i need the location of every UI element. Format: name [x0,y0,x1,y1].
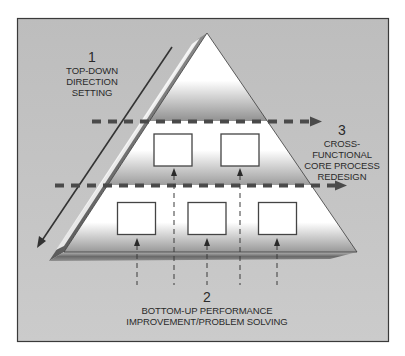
cross-functional-line-2: CORE PROCESS [296,160,388,171]
top-down-number: 1 [52,50,132,65]
bottom-up-number: 2 [117,290,297,305]
top-down-line-3: SETTING [52,87,132,98]
bottom-up-label: 2 BOTTOM-UP PERFORMANCE IMPROVEMENT/PROB… [117,290,297,327]
upper-tier-box-1 [154,134,192,166]
cross-functional-number: 3 [296,123,388,138]
bottom-up-line-2: IMPROVEMENT/PROBLEM SOLVING [117,316,297,327]
top-down-label: 1 TOP-DOWN DIRECTION SETTING [52,50,132,98]
lower-tier-box-1 [118,203,156,235]
upper-tier-box-2 [221,134,259,166]
lower-tier-box-3 [259,203,297,235]
cross-functional-line-1: CROSS-FUNCTIONAL [296,138,388,160]
top-down-line-2: DIRECTION [52,76,132,87]
cross-functional-line-3: REDESIGN [296,171,388,182]
lower-tier-box-2 [188,203,226,235]
top-down-line-1: TOP-DOWN [52,65,132,76]
bottom-up-line-1: BOTTOM-UP PERFORMANCE [117,305,297,316]
cross-functional-label: 3 CROSS-FUNCTIONAL CORE PROCESS REDESIGN [296,123,388,182]
